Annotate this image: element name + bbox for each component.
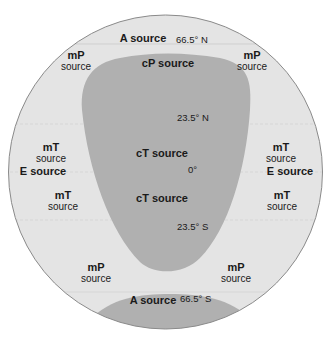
- label-ct-source-south: cT source: [136, 193, 188, 204]
- label-a-source-south: A source: [130, 295, 177, 306]
- label-ct-source-north: cT source: [136, 148, 188, 159]
- label-e-source-west: E source: [20, 166, 66, 177]
- label-mp-ne: mPsource: [237, 50, 267, 72]
- latitude-23n: 23.5° N: [177, 112, 209, 123]
- latitude-23s: 23.5° S: [177, 221, 208, 232]
- label-mt-sw: mTsource: [48, 190, 78, 212]
- label-cp-source: cP source: [142, 58, 194, 69]
- latitude-equator: 0°: [188, 164, 197, 175]
- label-a-source-north: A source: [120, 33, 167, 44]
- label-mt-se: mTsource: [267, 190, 297, 212]
- label-mp-se: mPsource: [221, 262, 251, 284]
- latitude-66n: 66.5° N: [176, 34, 208, 45]
- label-mt-nw: mTsource: [36, 142, 66, 164]
- latitude-66s: 66.5° S: [180, 293, 211, 304]
- label-mp-nw: mPsource: [61, 50, 91, 72]
- label-mt-ne: mTsource: [266, 142, 296, 164]
- label-mp-sw: mPsource: [81, 262, 111, 284]
- label-e-source-east: E source: [267, 166, 313, 177]
